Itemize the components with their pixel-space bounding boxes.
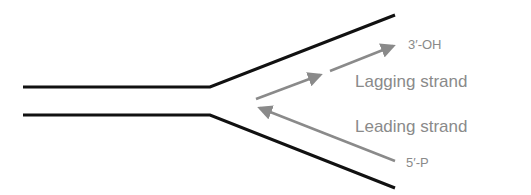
leading-strand-label: Leading strand <box>355 118 467 135</box>
lagging-fragment-2-arrow <box>330 46 393 71</box>
five-prime-label: 5′-P <box>406 156 429 169</box>
lagging-fragment-1-arrow <box>256 75 320 99</box>
lagging-strand-label: Lagging strand <box>355 73 467 90</box>
three-prime-label: 3′-OH <box>408 38 442 51</box>
bottom-parental-strand <box>23 115 395 188</box>
replication-fork-diagram: 3′-OH Lagging strand Leading strand 5′-P <box>0 0 531 195</box>
top-parental-strand <box>23 15 395 87</box>
fork-graphic <box>0 0 531 195</box>
